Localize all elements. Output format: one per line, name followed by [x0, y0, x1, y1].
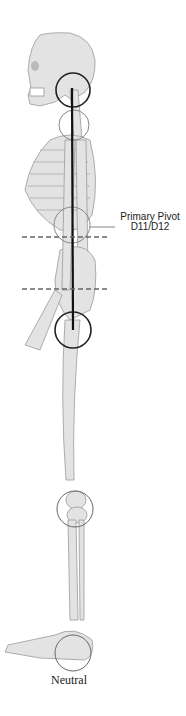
pivot-label-line2: D11/D12 [114, 222, 186, 232]
femur [63, 320, 80, 480]
figure-caption: Neutral [0, 673, 138, 688]
primary-pivot-label: Primary Pivot D11/D12 [114, 212, 186, 232]
plumb-line [72, 88, 73, 330]
foot [5, 631, 93, 660]
pelvis [55, 247, 96, 320]
skeleton-diagram [0, 0, 186, 716]
